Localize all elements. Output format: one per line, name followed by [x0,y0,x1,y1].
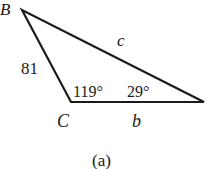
side-label-a: 81 [21,59,38,78]
side-label-b: b [132,111,141,131]
triangle [22,10,204,102]
figure-caption: (a) [92,151,111,169]
triangle-diagram: B C 81 c b 119° 29° (a) [0,0,210,169]
vertex-label-c: C [57,111,70,131]
angle-label-a: 29° [127,83,149,100]
vertex-label-b: B [0,0,11,19]
angle-label-c: 119° [73,83,103,100]
side-label-c: c [117,31,125,50]
